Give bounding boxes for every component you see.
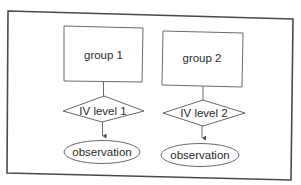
group-1-label: group 1 (84, 49, 123, 61)
group-2-label: group 2 (182, 52, 221, 64)
observation-2-label: observation (170, 149, 229, 161)
iv-level-1-label: IV level 1 (79, 105, 126, 117)
observation-1-label: observation (72, 146, 131, 158)
iv-level-2-label: IV level 2 (180, 107, 227, 119)
diagram-canvas: group 1 IV level 1 observation group 2 I… (0, 0, 301, 185)
diagram-frame (7, 11, 293, 180)
